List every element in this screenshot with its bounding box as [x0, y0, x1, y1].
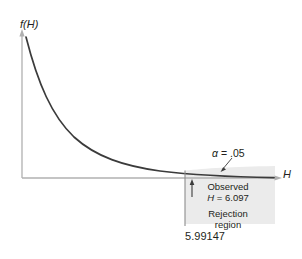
alpha-value: .05: [230, 147, 245, 159]
rejection-region-annotation: Observed H = 6.097 Rejection region: [197, 182, 259, 231]
observed-value-line: H = 6.097: [197, 193, 259, 204]
chi-square-rejection-region-figure: f(H) H α = .05 Observed H = 6.097 Reject…: [0, 0, 302, 259]
observed-value: 6.097: [225, 192, 249, 203]
alpha-equals: =: [218, 147, 230, 159]
alpha-annotation: α = .05: [212, 147, 245, 159]
x-axis-arrowhead: [275, 175, 283, 180]
observed-equals: =: [214, 192, 225, 203]
x-axis-label: H: [283, 168, 291, 181]
y-axis-label: f(H): [20, 18, 38, 31]
critical-value-tick-label: 5.99147: [170, 230, 240, 243]
